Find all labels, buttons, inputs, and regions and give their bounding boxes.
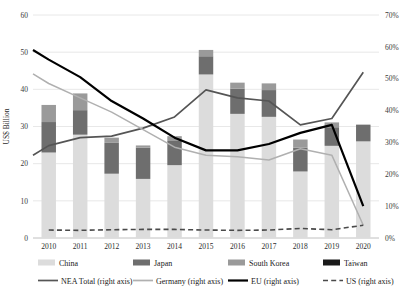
y-axis-left-tick-label: 30	[21, 122, 29, 131]
y-axis-right-tick-label: 0%	[385, 234, 395, 243]
y-axis-left-tick-label: 0	[24, 234, 28, 243]
bar-segment	[41, 153, 55, 238]
bar-segment	[199, 56, 213, 74]
legend-label: EU (right axis)	[251, 277, 299, 286]
x-axis-tick-label: 2018	[293, 242, 308, 251]
bar-segment	[230, 114, 244, 238]
bar-group	[293, 140, 307, 238]
bar-segment	[41, 105, 55, 122]
legend-swatch	[133, 260, 150, 266]
bar-group	[230, 83, 244, 238]
x-axis-tick-label: 2010	[41, 242, 56, 251]
y-axis-right-tick-label: 20%	[385, 170, 399, 179]
y-axis-right-tick-label: 50%	[385, 74, 399, 83]
bar-segment	[73, 135, 87, 238]
legend-label: NEA Total (right axis)	[61, 277, 133, 286]
y-axis-right-tick-label: 10%	[385, 202, 399, 211]
bar-segment	[199, 74, 213, 238]
y-axis-left-tick-label: 10	[21, 197, 29, 206]
legend-swatch	[228, 260, 245, 266]
x-axis-tick-label: 2011	[73, 242, 88, 251]
x-axis-tick-label: 2012	[104, 242, 119, 251]
bar-segment	[356, 125, 370, 142]
x-axis-tick-label: 2014	[167, 242, 182, 251]
bar-segment	[104, 138, 118, 143]
bar-group	[136, 145, 150, 238]
bar-segment	[293, 140, 307, 148]
y-axis-right-tick-label: 30%	[385, 138, 399, 147]
legend-label: Taiwan	[344, 259, 367, 268]
bar-segment	[325, 146, 339, 238]
x-axis-tick-label: 2013	[136, 242, 151, 251]
bar-segment	[167, 165, 181, 238]
legend-label: South Korea	[249, 259, 290, 268]
y-axis-right-tick-label: 60%	[385, 43, 399, 52]
legend-label: China	[59, 259, 79, 268]
bar-group	[104, 138, 118, 238]
legend-swatch	[323, 260, 340, 266]
bar-segment	[230, 89, 244, 114]
bar-segment	[73, 110, 87, 135]
y-axis-right-tick-label: 40%	[385, 106, 399, 115]
legend-swatch	[38, 260, 55, 266]
chart-container: 0102030405060 0%10%20%30%40%50%60%70% 20…	[0, 0, 419, 295]
bar-segment	[262, 83, 276, 90]
x-axis-tick-label: 2015	[199, 242, 214, 251]
bar-segment	[136, 145, 150, 147]
legend-label: Japan	[154, 259, 172, 268]
y-axis-left-tick-label: 40	[21, 85, 29, 94]
bar-segment	[199, 50, 213, 56]
bar-group	[41, 105, 55, 238]
bar-segment	[262, 90, 276, 117]
y-axis-left-title: US$ Billion	[2, 108, 11, 144]
x-axis-tick-label: 2019	[324, 242, 339, 251]
y-axis-left-tick-label: 50	[21, 48, 29, 57]
y-axis-left-tick-label: 60	[21, 11, 29, 20]
bar-group	[167, 136, 181, 238]
bar-segment	[230, 83, 244, 89]
bar-group	[356, 125, 370, 238]
y-axis-title: US$ Billion	[2, 108, 11, 144]
bar-segment	[104, 174, 118, 238]
stacked-bar-line-chart: 0102030405060 0%10%20%30%40%50%60%70% 20…	[0, 0, 419, 295]
x-axis-tick-label: 2017	[261, 242, 276, 251]
bar-group	[199, 50, 213, 238]
y-axis-right-tick-label: 70%	[385, 11, 399, 20]
legend-label: Germany (right axis)	[156, 277, 223, 286]
bar-segment	[104, 143, 118, 174]
bar-segment	[136, 148, 150, 179]
legend-label: US (right axis)	[346, 277, 394, 286]
bar-group	[73, 93, 87, 238]
y-axis-left-tick-label: 20	[21, 159, 29, 168]
x-axis-tick-label: 2020	[356, 242, 371, 251]
x-axis-tick-label: 2016	[230, 242, 245, 251]
bar-segment	[262, 117, 276, 238]
